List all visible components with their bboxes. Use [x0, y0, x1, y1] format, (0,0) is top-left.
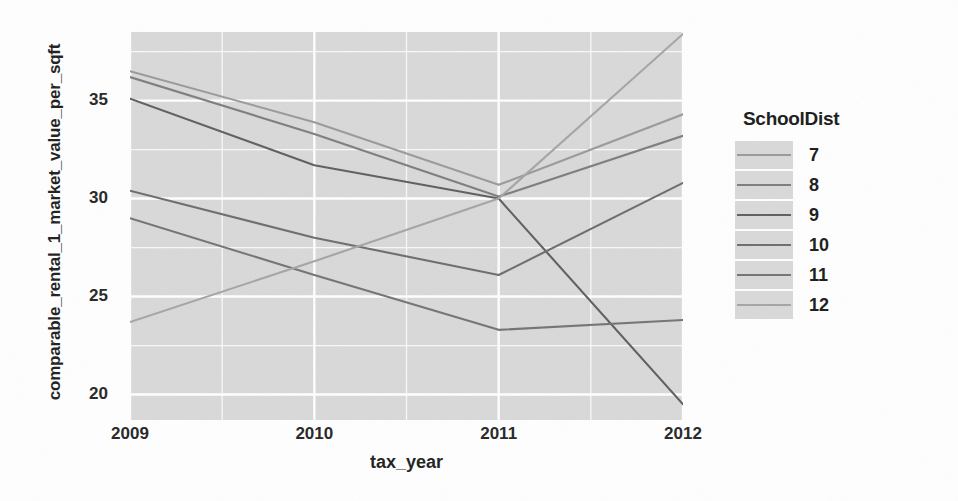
x-tick-label: 2009 [95, 424, 165, 444]
legend-key-swatch [735, 231, 793, 259]
legend-label: 11 [809, 265, 828, 286]
legend-label: 10 [809, 235, 829, 256]
legend-label: 9 [809, 205, 819, 226]
legend-key-line [737, 274, 791, 276]
legend-key-line [737, 154, 791, 156]
legend-key-swatch [735, 261, 793, 289]
chart-figure: comparable_rental_1_market_value_per_sqf… [0, 0, 958, 501]
x-tick-label: 2010 [279, 424, 349, 444]
x-axis-tick-labels: 2009201020112012 [0, 424, 958, 450]
legend-item-7[interactable]: 7 [735, 140, 935, 170]
y-tick-label: 30 [64, 188, 108, 208]
y-tick-label: 25 [64, 286, 108, 306]
x-tick-label: 2011 [464, 424, 534, 444]
legend-item-12[interactable]: 12 [735, 290, 935, 320]
legend: SchoolDist 789101112 [735, 108, 935, 320]
legend-item-9[interactable]: 9 [735, 200, 935, 230]
plot-panel [130, 32, 683, 420]
x-axis-title: tax_year [130, 452, 683, 473]
plot-lines [130, 32, 683, 420]
legend-label: 12 [809, 295, 829, 316]
legend-label: 8 [809, 175, 819, 196]
legend-key-line [737, 304, 791, 306]
y-tick-label: 20 [64, 384, 108, 404]
legend-item-8[interactable]: 8 [735, 170, 935, 200]
legend-key-swatch [735, 201, 793, 229]
legend-key-line [737, 244, 791, 246]
legend-label: 7 [809, 145, 819, 166]
legend-title: SchoolDist [743, 108, 935, 130]
legend-key-line [737, 184, 791, 186]
legend-key-swatch [735, 141, 793, 169]
legend-item-10[interactable]: 10 [735, 230, 935, 260]
legend-key-swatch [735, 171, 793, 199]
legend-item-11[interactable]: 11 [735, 260, 935, 290]
legend-entries: 789101112 [735, 140, 935, 320]
legend-key-line [737, 214, 791, 216]
y-tick-label: 35 [64, 90, 108, 110]
x-tick-label: 2012 [648, 424, 718, 444]
legend-key-swatch [735, 291, 793, 319]
